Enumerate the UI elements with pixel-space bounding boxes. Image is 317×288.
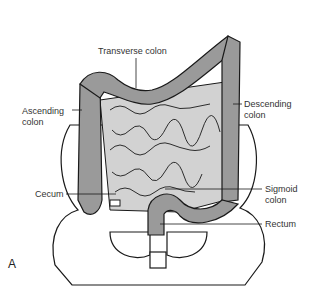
colon-anatomy-illustration bbox=[0, 0, 317, 288]
label-transverse-colon: Transverse colon bbox=[98, 46, 167, 56]
label-descending-colon-line2: colon bbox=[244, 110, 266, 120]
label-descending-colon-line1: Descending bbox=[244, 99, 292, 109]
label-ascending-colon-line1: Ascending bbox=[22, 106, 64, 116]
label-cecum: Cecum bbox=[35, 189, 64, 199]
cecum-appendix bbox=[110, 200, 120, 206]
label-sigmoid-colon-line1: Sigmoid bbox=[265, 184, 298, 194]
label-sigmoid-colon-line2: colon bbox=[265, 195, 287, 205]
label-ascending-colon-line2: colon bbox=[22, 117, 44, 127]
panel-letter: A bbox=[8, 257, 16, 271]
label-rectum: Rectum bbox=[265, 219, 296, 229]
